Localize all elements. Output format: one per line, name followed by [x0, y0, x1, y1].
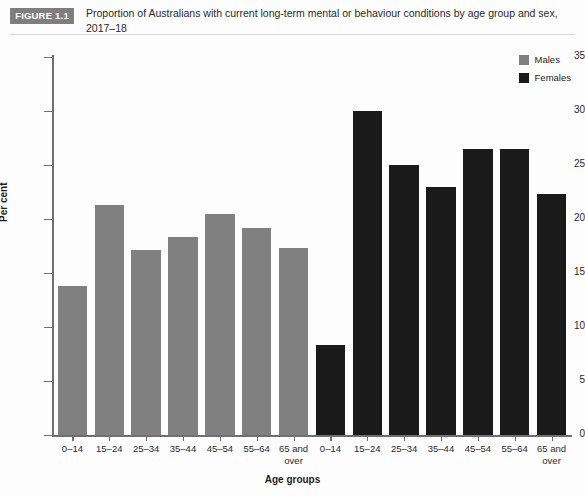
- x-tick-mark: [257, 436, 258, 441]
- y-tick-mark: [44, 435, 52, 436]
- y-tick-mark: [44, 381, 52, 382]
- x-axis-title: Age groups: [0, 474, 585, 485]
- bars-group: [54, 57, 570, 435]
- y-tick-mark: [44, 219, 52, 220]
- bar-females-3: [426, 187, 455, 435]
- y-tick-mark: [44, 273, 52, 274]
- x-tick-mark: [220, 436, 221, 441]
- bar-males-3: [168, 237, 197, 435]
- bar-males-2: [131, 250, 160, 435]
- bar-females-4: [463, 149, 492, 435]
- y-tick-mark: [44, 165, 52, 166]
- x-tick-mark: [552, 436, 553, 441]
- bar-males-5: [242, 228, 271, 435]
- figure-title: Proportion of Australians with current l…: [86, 6, 572, 35]
- bar-males-6: [279, 248, 308, 435]
- x-tick-mark: [72, 436, 73, 441]
- x-tick-mark: [404, 436, 405, 441]
- bar-females-2: [389, 165, 418, 435]
- bar-males-0: [58, 286, 87, 435]
- x-tick-mark: [515, 436, 516, 441]
- x-tick-mark: [330, 436, 331, 441]
- bar-females-6: [537, 194, 566, 435]
- bar-females-0: [316, 345, 345, 435]
- bar-females-1: [353, 111, 382, 435]
- y-tick-mark: [44, 111, 52, 112]
- figure-container: FIGURE 1.1 Proportion of Australians wit…: [0, 0, 585, 496]
- y-tick-mark: [44, 57, 52, 58]
- x-tick-mark: [441, 436, 442, 441]
- y-tick-mark: [44, 327, 52, 328]
- figure-header: FIGURE 1.1 Proportion of Australians wit…: [0, 6, 585, 42]
- x-tick-mark: [478, 436, 479, 441]
- x-tick-label: 65 and over: [530, 443, 573, 467]
- x-tick-mark: [183, 436, 184, 441]
- x-tick-mark: [294, 436, 295, 441]
- x-axis-line: [52, 435, 572, 437]
- x-tick-mark: [146, 436, 147, 441]
- x-tick-mark: [109, 436, 110, 441]
- bar-females-5: [500, 149, 529, 435]
- x-tick-mark: [367, 436, 368, 441]
- bar-males-4: [205, 214, 234, 435]
- header-divider: [10, 34, 575, 35]
- y-axis-title: Per cent: [0, 206, 9, 222]
- figure-number-badge: FIGURE 1.1: [10, 8, 74, 24]
- bar-males-1: [95, 205, 124, 435]
